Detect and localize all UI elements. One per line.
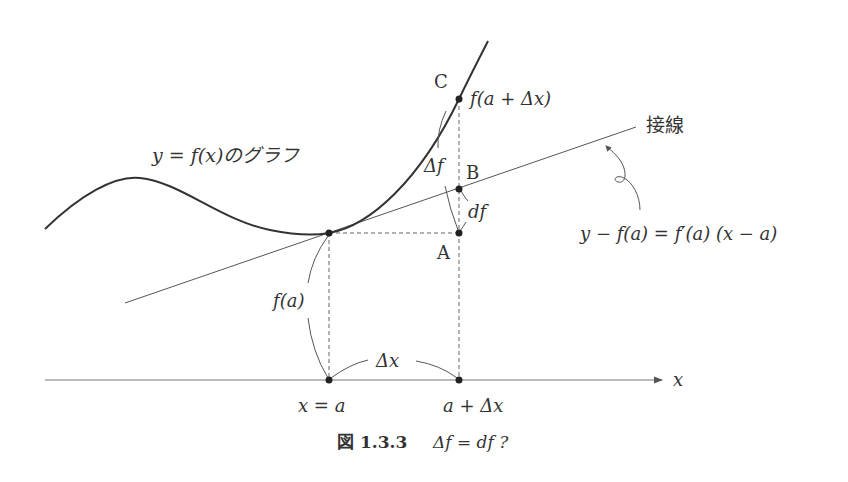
diagram-canvas: y = f(x)のグラフ C f(a + Δx) 接線 Δf B df A y …: [0, 0, 848, 482]
leader-tangent-equation: [606, 146, 640, 210]
a-plus-dx-label: a + Δx: [443, 395, 503, 416]
leader-delta-f-lower: [445, 186, 458, 230]
point-x-a: [326, 377, 333, 384]
leader-df-lower: [460, 222, 466, 231]
leader-fa-upper: [308, 236, 328, 283]
point-A: [456, 230, 463, 237]
tangent-label: 接線: [646, 114, 684, 136]
f-a-plus-dx-label: f(a + Δx): [468, 88, 551, 109]
point-B: [456, 186, 463, 193]
point-B-label: B: [466, 162, 479, 183]
delta-x-label: Δx: [375, 350, 399, 371]
leader-fa-lower: [308, 318, 328, 378]
graph-label: y = f(x)のグラフ: [151, 144, 300, 166]
function-curve: [45, 41, 488, 235]
caption-number: 図 1.3.3: [337, 432, 407, 452]
leader-dx-right: [416, 361, 457, 378]
tangent-equation: y − f(a) = f′(a) (x − a): [579, 223, 777, 244]
point-C-label: C: [434, 71, 448, 92]
x-eq-a-label: x = a: [298, 395, 345, 416]
point-tangent: [326, 230, 333, 237]
f-a-label: f(a): [271, 290, 304, 311]
x-axis-label: x: [673, 369, 683, 390]
leader-df-upper: [461, 191, 468, 201]
point-A-label: A: [436, 242, 451, 263]
leader-dx-left: [331, 360, 368, 378]
point-C: [456, 96, 463, 103]
df-label: df: [468, 201, 490, 222]
point-x-a-plus-dx: [456, 377, 463, 384]
caption-text: Δf = df ?: [432, 432, 509, 452]
delta-f-label: Δf: [423, 155, 447, 176]
